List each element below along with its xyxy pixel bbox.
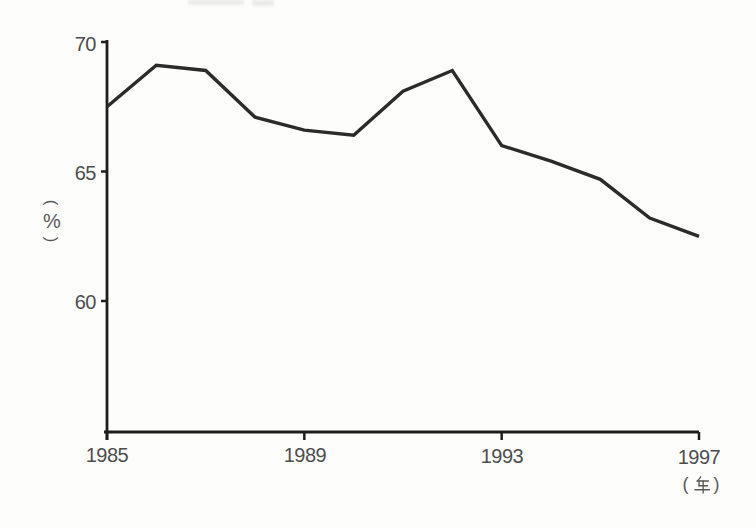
y-unit-paren-open: (	[45, 200, 58, 206]
x-axis-unit-label: ( )	[668, 474, 734, 494]
scanned-line-chart-page: 70 65 60 ( % ) 1985 1989 1993 1997 ( )	[0, 0, 756, 528]
y-axis-tick-label-70: 70	[56, 33, 96, 55]
year-kanji-icon	[692, 475, 711, 494]
y-axis-tick-label-60: 60	[56, 291, 96, 313]
x-unit-paren-open: (	[680, 474, 692, 494]
x-unit-paren-close: )	[711, 474, 723, 494]
x-axis-tick-label-1985: 1985	[75, 444, 139, 466]
x-axis-tick-label-1989: 1989	[273, 444, 337, 466]
x-axis-tick-label-1993: 1993	[470, 445, 534, 467]
x-axis-tick-label-1997: 1997	[667, 446, 731, 468]
y-axis-tick-label-65: 65	[56, 162, 96, 184]
percent-symbol: %	[43, 209, 61, 233]
data-line	[107, 65, 699, 236]
y-axis-unit-label: ( % )	[36, 196, 68, 246]
y-unit-paren-close: )	[45, 237, 58, 243]
